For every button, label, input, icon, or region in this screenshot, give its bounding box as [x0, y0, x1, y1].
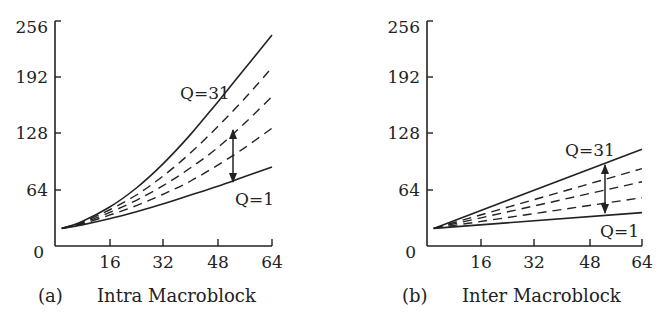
- y-tick-label: 64: [26, 180, 48, 200]
- caption-prefix: (b): [402, 285, 428, 306]
- x-axis: 16 32 48 64: [55, 239, 283, 272]
- y-tick-label: 128: [16, 123, 48, 143]
- caption-title: Intra Macroblock: [97, 285, 257, 306]
- q1-label: Q=1: [235, 189, 274, 209]
- x-tick-label: 48: [207, 252, 229, 272]
- y-axis: 256 192 128 64 0: [388, 17, 433, 262]
- x-tick-label: 16: [470, 252, 492, 272]
- y-tick-label: 192: [16, 67, 48, 87]
- q1-label: Q=1: [600, 221, 639, 241]
- data-series: [434, 149, 642, 228]
- x-tick-label: 64: [261, 252, 283, 272]
- x-tick-label: 64: [631, 252, 653, 272]
- intra-macroblock-chart: 256 192 128 64 0 16 32 48 64 Q=31 Q=1 (a…: [16, 17, 283, 306]
- y-tick-label: 256: [388, 17, 420, 37]
- caption-title: Inter Macroblock: [462, 285, 622, 306]
- y-tick-label: 0: [33, 242, 44, 262]
- y-tick-label: 192: [388, 67, 420, 87]
- x-tick-label: 32: [152, 252, 174, 272]
- q31-label: Q=31: [180, 83, 230, 103]
- y-axis: 256 192 128 64 0: [16, 17, 61, 262]
- x-tick-label: 32: [523, 252, 545, 272]
- y-tick-label: 128: [388, 123, 420, 143]
- y-tick-label: 256: [16, 17, 48, 37]
- x-tick-label: 48: [579, 252, 601, 272]
- y-tick-label: 64: [398, 180, 420, 200]
- x-axis: 16 32 48 64: [427, 239, 653, 272]
- q31-label: Q=31: [565, 140, 615, 160]
- figure: 256 192 128 64 0 16 32 48 64 Q=31 Q=1 (a…: [0, 0, 661, 325]
- caption-prefix: (a): [38, 285, 63, 306]
- inter-macroblock-chart: 256 192 128 64 0 16 32 48 64 Q=31 Q=1 (b…: [388, 17, 653, 306]
- x-tick-label: 16: [99, 252, 121, 272]
- y-tick-label: 0: [405, 242, 416, 262]
- dashed-curve: [434, 169, 642, 229]
